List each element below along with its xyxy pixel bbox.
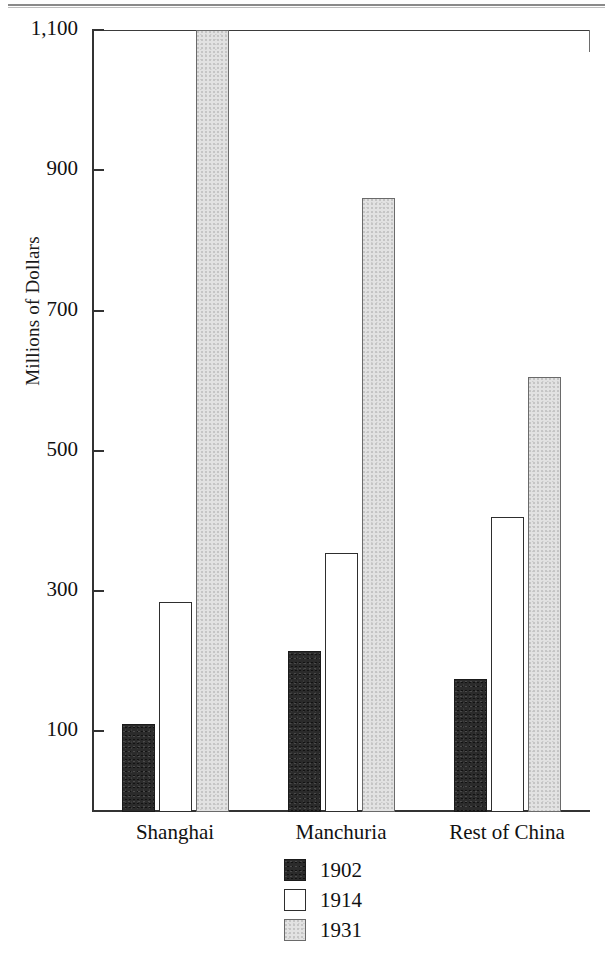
plot-frame-right-edge	[589, 30, 590, 52]
bar-shanghai-1914	[159, 602, 192, 812]
y-tick-label: 1,100	[0, 16, 78, 41]
legend-label-1914: 1914	[320, 888, 362, 913]
y-tick-mark	[92, 169, 104, 171]
legend-item-1902[interactable]: 1902	[284, 855, 464, 885]
y-tick-label: 700	[0, 297, 78, 322]
legend-swatch-1914-icon	[284, 889, 306, 911]
legend-item-1914[interactable]: 1914	[284, 885, 464, 915]
bar-rest-of-china-1931	[528, 377, 561, 812]
bar-rest-of-china-1914	[491, 517, 524, 812]
y-tick-mark	[92, 730, 104, 732]
legend: 1902 1914 1931	[284, 855, 464, 945]
bar-rest-of-china-1902	[454, 679, 487, 812]
y-tick-label: 500	[0, 437, 78, 462]
bar-shanghai-1902	[122, 724, 155, 812]
y-tick-mark	[92, 29, 104, 31]
y-tick-label: 300	[0, 577, 78, 602]
category-label-rest-of-china: Rest of China	[424, 820, 590, 845]
y-tick-mark	[92, 310, 104, 312]
y-tick-label: 900	[0, 156, 78, 181]
legend-item-1931[interactable]: 1931	[284, 915, 464, 945]
legend-swatch-1931-icon	[284, 919, 306, 941]
bar-chart-figure: Millions of Dollars 1003005007009001,100…	[0, 0, 613, 955]
category-label-shanghai: Shanghai	[92, 820, 258, 845]
bar-manchuria-1914	[325, 553, 358, 812]
legend-swatch-1902-icon	[284, 859, 306, 881]
page-rule-thick	[8, 4, 605, 6]
category-label-manchuria: Manchuria	[258, 820, 424, 845]
page-rule-thin	[8, 7, 605, 8]
bar-shanghai-1931	[196, 30, 229, 812]
y-tick-label: 100	[0, 717, 78, 742]
y-tick-mark	[92, 450, 104, 452]
bar-manchuria-1902	[288, 651, 321, 812]
legend-label-1931: 1931	[320, 918, 362, 943]
legend-label-1902: 1902	[320, 858, 362, 883]
y-tick-mark	[92, 590, 104, 592]
bar-manchuria-1931	[362, 198, 395, 812]
